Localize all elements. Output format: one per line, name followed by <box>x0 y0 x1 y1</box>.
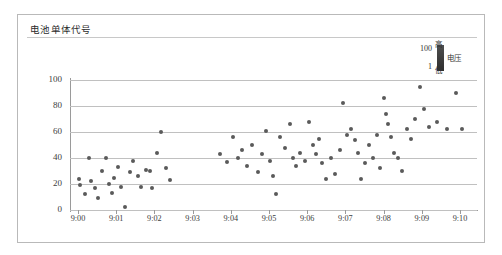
scatter-point <box>405 127 409 131</box>
y-axis-tick-label: 80 <box>22 100 62 110</box>
scatter-point <box>371 156 375 160</box>
scatter-point <box>123 205 127 209</box>
scatter-point <box>155 151 159 155</box>
scatter-point <box>320 161 324 165</box>
scatter-point <box>89 179 93 183</box>
scatter-point <box>396 156 400 160</box>
legend-max-value: 100 <box>408 44 432 53</box>
scatter-point <box>291 156 295 160</box>
scatter-point <box>288 122 292 126</box>
scatter-point <box>378 166 382 170</box>
scatter-point <box>356 151 360 155</box>
scatter-point <box>218 152 222 156</box>
scatter-point <box>294 164 298 168</box>
scatter-point <box>382 96 386 100</box>
scatter-point <box>271 174 275 178</box>
scatter-point <box>139 185 143 189</box>
gridline <box>70 210 477 211</box>
scatter-point <box>427 125 431 129</box>
scatter-point <box>389 135 393 139</box>
y-axis-tick-label: 60 <box>22 126 62 136</box>
scatter-point <box>150 186 154 190</box>
scatter-point <box>333 172 337 176</box>
scatter-point <box>131 159 135 163</box>
scatter-point <box>317 137 321 141</box>
scatter-point <box>110 191 114 195</box>
scatter-point <box>100 169 104 173</box>
legend-high-label: 高 <box>435 38 442 49</box>
scatter-point <box>375 133 379 137</box>
legend-title: 电压 <box>447 52 461 63</box>
scatter-point <box>119 185 123 189</box>
scatter-point <box>445 127 449 131</box>
scatter-point <box>384 112 388 116</box>
gridline <box>70 80 477 81</box>
scatter-point <box>303 159 307 163</box>
scatter-point <box>268 159 272 163</box>
gridline <box>70 184 477 185</box>
scatter-point <box>236 156 240 160</box>
scatter-point <box>260 152 264 156</box>
scatter-point <box>283 146 287 150</box>
scatter-point <box>128 170 132 174</box>
legend-min-value: 1 <box>408 62 432 71</box>
scatter-point <box>367 143 371 147</box>
scatter-point <box>87 156 91 160</box>
scatter-point <box>345 133 349 137</box>
scatter-point <box>78 183 82 187</box>
scatter-point <box>359 177 363 181</box>
y-axis-tick-label: 40 <box>22 152 62 162</box>
scatter-point <box>413 117 417 121</box>
scatter-point <box>159 130 163 134</box>
scatter-point <box>329 156 333 160</box>
scatter-point <box>353 138 357 142</box>
scatter-plot-area <box>70 80 477 210</box>
scatter-point <box>168 178 172 182</box>
scatter-point <box>96 196 100 200</box>
scatter-point <box>240 148 244 152</box>
x-axis-tick-label: 9:10 <box>438 214 482 223</box>
scatter-point <box>460 127 464 131</box>
title-divider <box>27 37 477 38</box>
scatter-point <box>349 127 353 131</box>
page-title: 电池单体代号 <box>30 22 92 36</box>
scatter-point <box>307 120 311 124</box>
scatter-point <box>148 169 152 173</box>
scatter-point <box>112 176 116 180</box>
scatter-point <box>136 174 140 178</box>
scatter-point <box>422 107 426 111</box>
scatter-point <box>107 182 111 186</box>
scatter-point <box>454 91 458 95</box>
scatter-point <box>278 135 282 139</box>
scatter-point <box>116 165 120 169</box>
scatter-point <box>311 143 315 147</box>
scatter-point <box>341 101 345 105</box>
scatter-point <box>298 151 302 155</box>
y-axis-tick-label: 20 <box>22 178 62 188</box>
gridline <box>70 106 477 107</box>
legend-low-label: 低 <box>435 64 442 75</box>
scatter-point <box>363 161 367 165</box>
scatter-point <box>314 152 318 156</box>
scatter-point <box>256 170 260 174</box>
scatter-point <box>164 166 168 170</box>
scatter-point <box>93 186 97 190</box>
scatter-point <box>250 143 254 147</box>
y-axis-tick-label: 100 <box>22 74 62 84</box>
scatter-point <box>264 129 268 133</box>
scatter-point <box>338 148 342 152</box>
scatter-point <box>274 192 278 196</box>
y-axis-tick-label: 0 <box>22 204 62 214</box>
scatter-point <box>324 177 328 181</box>
scatter-point <box>83 192 87 196</box>
scatter-point <box>245 164 249 168</box>
scatter-point <box>409 137 413 141</box>
scatter-point <box>386 122 390 126</box>
scatter-point <box>418 85 422 89</box>
scatter-point <box>225 160 229 164</box>
scatter-point <box>435 120 439 124</box>
scatter-point <box>392 151 396 155</box>
scatter-point <box>231 135 235 139</box>
scatter-point <box>400 169 404 173</box>
legend: 100 1 高 低 电压 <box>408 40 478 80</box>
